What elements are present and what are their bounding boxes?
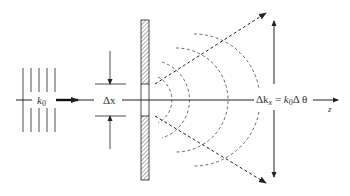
spread-equation-label: Δkx = k0Δ θ [256, 93, 307, 107]
k0-label: k0 [37, 94, 46, 108]
z-axis-label: z [327, 104, 332, 114]
diffraction-rays [155, 13, 266, 183]
slit-width-label: Δx [103, 94, 116, 106]
diffraction-diagram: k0 Δx Δkx = k0Δ θ z [0, 0, 350, 196]
